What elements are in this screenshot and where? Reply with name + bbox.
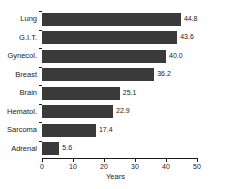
bar-value-label: 43.6 [177,30,194,43]
bar-row: Hematol.22.9 [42,103,197,122]
bar-value-label: 5.6 [59,141,72,154]
bar-value-label: 25.1 [120,86,137,99]
bar [42,31,177,44]
bar-chart: Lung44.8G.I.T.43.6Gynecol.40.0Breast36.2… [0,0,231,189]
x-axis-tick-label: 10 [69,163,77,170]
bar-row: Lung44.8 [42,10,197,29]
x-axis-tick [42,158,43,162]
bar-row: Breast36.2 [42,66,197,85]
bar [42,124,96,137]
bar-value-label: 40.0 [166,49,183,62]
bar-value-label: 44.8 [181,12,198,25]
category-label: Gynecol. [7,47,37,66]
x-axis-line: 01020304050 [42,158,197,159]
bar-wrapper: 25.1 [42,87,197,100]
bar-wrapper: 17.4 [42,124,197,137]
bar [42,105,113,118]
x-axis-tick [166,158,167,162]
plot-area: Lung44.8G.I.T.43.6Gynecol.40.0Breast36.2… [42,10,197,158]
bar-row: G.I.T.43.6 [42,29,197,48]
bar-wrapper: 36.2 [42,68,197,81]
bar-wrapper: 43.6 [42,31,197,44]
bar-value-label: 17.4 [96,123,113,136]
bar [42,142,59,155]
bar-wrapper: 40.0 [42,50,197,63]
x-axis-tick [73,158,74,162]
x-axis-tick [104,158,105,162]
bar [42,50,166,63]
x-axis-tick-label: 20 [100,163,108,170]
x-axis-tick-label: 40 [162,163,170,170]
bar [42,87,120,100]
bar-row: Gynecol.40.0 [42,47,197,66]
x-axis-tick-label: 30 [131,163,139,170]
bar-row: Adrenal5.6 [42,140,197,159]
category-label: Lung [20,10,37,29]
category-label: Sarcoma [7,121,37,140]
bar-row: Brain25.1 [42,84,197,103]
bar-wrapper: 22.9 [42,105,197,118]
category-label: Hematol. [7,103,37,122]
category-label: Breast [15,66,37,85]
bar-value-label: 22.9 [113,104,130,117]
category-label: Adrenal [11,140,37,159]
bar-value-label: 36.2 [154,67,171,80]
x-axis-tick-label: 50 [193,163,201,170]
bar-row: Sarcoma17.4 [42,121,197,140]
bar [42,68,154,81]
bar-wrapper: 44.8 [42,13,197,26]
x-axis-tick [197,158,198,162]
category-label: Brain [19,84,37,103]
bar [42,13,181,26]
x-axis-tick-label: 0 [40,163,44,170]
category-label: G.I.T. [19,29,37,48]
x-axis-title: Years [0,172,231,181]
x-axis-tick [135,158,136,162]
bar-wrapper: 5.6 [42,142,197,155]
